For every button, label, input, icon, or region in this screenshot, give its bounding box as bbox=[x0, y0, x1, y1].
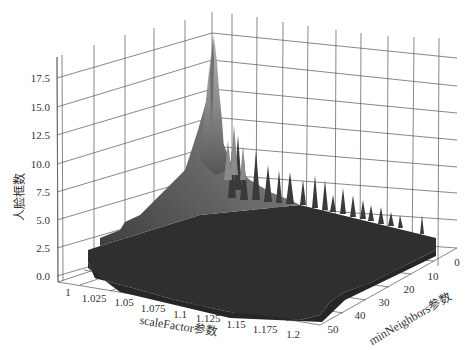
x-tick: 1 bbox=[65, 286, 71, 298]
z-tick: 7.5 bbox=[36, 186, 50, 198]
z-axis: 17.5 15.0 12.5 10.0 7.5 5.0 2.5 0.0 人脸框数 bbox=[12, 57, 58, 282]
x-tick: 1.2 bbox=[286, 328, 300, 340]
y-tick: 10 bbox=[428, 270, 440, 282]
z-tick: 12.5 bbox=[31, 129, 51, 141]
z-tick: 2.5 bbox=[36, 242, 50, 254]
x-tick: 1.025 bbox=[82, 292, 107, 304]
y-tick: 30 bbox=[379, 296, 391, 308]
z-tick: 10.0 bbox=[31, 158, 51, 170]
y-tick: 40 bbox=[355, 309, 367, 321]
y-tick: 50 bbox=[328, 323, 340, 335]
z-tick: 15.0 bbox=[31, 101, 51, 113]
y-tick: 0 bbox=[454, 256, 460, 268]
x-tick: 1.05 bbox=[114, 296, 134, 308]
z-axis-label: 人脸框数 bbox=[12, 173, 27, 221]
x-tick: 1.15 bbox=[226, 318, 246, 330]
x-tick: 1.175 bbox=[253, 323, 278, 335]
z-tick: 17.5 bbox=[31, 72, 51, 84]
z-tick: 0.0 bbox=[36, 270, 50, 282]
z-tick: 5.0 bbox=[36, 214, 50, 226]
surface-chart: 17.5 15.0 12.5 10.0 7.5 5.0 2.5 0.0 人脸框数… bbox=[0, 0, 475, 350]
y-tick: 20 bbox=[404, 283, 416, 295]
x-tick: 1.075 bbox=[141, 302, 166, 314]
